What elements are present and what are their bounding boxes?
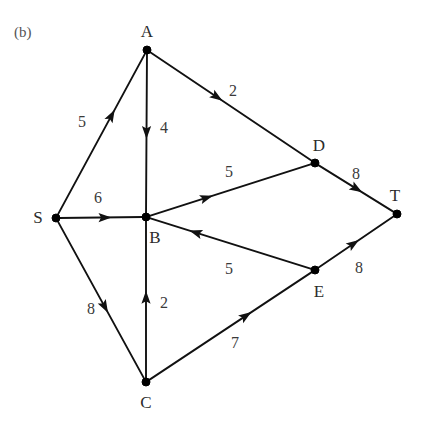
arrowhead-c-e [238,312,251,323]
edge-weight-s-c: 8 [87,301,95,317]
edge-weight-c-b: 2 [160,295,168,311]
edge-s-c [57,221,144,380]
edge-weight-s-b: 6 [94,190,102,206]
node-s[interactable] [52,214,60,222]
node-label-e: E [314,283,324,300]
arrowhead-a-d [209,90,222,101]
arrowhead-s-c [98,299,108,313]
node-t[interactable] [393,210,401,218]
arrowhead-d-t [349,182,362,193]
edge-weight-s-a: 5 [78,114,86,130]
node-b[interactable] [142,213,150,221]
edge-weight-a-d: 2 [229,83,237,99]
node-a[interactable] [143,46,151,54]
edge-weight-a-b: 4 [160,120,168,136]
node-label-a: A [141,23,153,40]
edge-weight-e-b: 5 [225,261,233,277]
node-c[interactable] [142,378,150,386]
node-d[interactable] [311,159,319,167]
edge-c-e [149,272,313,381]
node-label-t: T [390,187,400,204]
graph-canvas [0,0,425,426]
node-label-c: C [140,394,151,411]
edge-weight-b-d: 5 [225,164,233,180]
node-label-s: S [33,209,42,226]
node-label-b: B [149,229,160,246]
edge-a-d [149,52,312,162]
edge-weight-d-t: 8 [352,166,360,182]
edge-weight-c-e: 7 [231,335,239,351]
edge-weight-e-t: 8 [355,260,363,276]
node-label-d: D [313,137,325,154]
arrowhead-s-a [104,110,114,124]
node-e[interactable] [311,266,319,274]
arrowhead-e-t [346,240,359,251]
graph-figure: (b) 54265882758SABCDET [0,0,425,426]
edges-layer [57,52,394,381]
